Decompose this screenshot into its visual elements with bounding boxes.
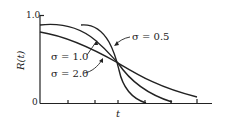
x-axis-label: t — [116, 109, 120, 119]
reliability-chart: 1.0 0 R(t) t σ = 0.5 σ = 1.0 σ = 2.0 — [0, 0, 225, 122]
annotation-sigma-1-0: σ = 1.0 — [51, 52, 88, 62]
annotation-sigma-2-0: σ = 2.0 — [51, 69, 88, 79]
y-tick-label-top: 1.0 — [26, 11, 40, 20]
y-axis-label: R(t) — [16, 51, 26, 70]
annotation-sigma-0-5: σ = 0.5 — [132, 32, 169, 42]
annotation-arrows — [84, 37, 130, 73]
arrowhead-sigma-2-0 — [99, 58, 103, 63]
curves — [40, 24, 197, 103]
y-tick-label-bottom: 0 — [32, 98, 38, 107]
